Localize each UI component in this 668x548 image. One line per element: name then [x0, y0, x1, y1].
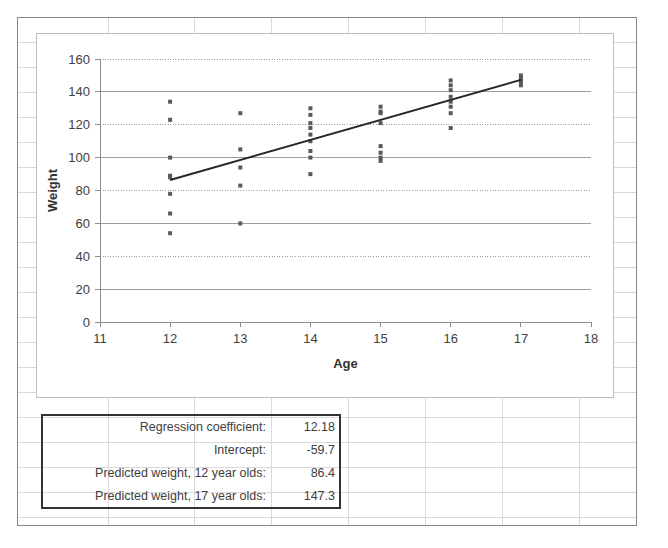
- x-axis-ticks: 1112131415161718: [93, 322, 598, 346]
- x-tick-label: 11: [93, 331, 107, 346]
- data-point: [449, 88, 453, 92]
- y-tick-label: 40: [76, 249, 90, 264]
- data-point: [449, 111, 453, 115]
- chart-container[interactable]: 0204060801001201401601112131415161718Age…: [36, 33, 614, 398]
- x-tick-label: 17: [514, 331, 528, 346]
- data-point: [168, 100, 172, 104]
- data-point: [449, 126, 453, 130]
- result-label: Predicted weight, 12 year olds:: [43, 462, 272, 485]
- x-tick-label: 16: [443, 331, 457, 346]
- data-point: [308, 126, 312, 130]
- data-point: [308, 106, 312, 110]
- result-value: 147.3: [272, 484, 339, 507]
- y-axis-ticks: 020406080100120140160: [68, 52, 100, 330]
- x-tick-label: 13: [233, 331, 247, 346]
- y-tick-label: 120: [68, 117, 90, 132]
- y-tick-label: 100: [68, 150, 90, 165]
- y-axis-title: Weight: [45, 168, 60, 212]
- x-axis-title: Age: [333, 356, 358, 371]
- data-point: [308, 113, 312, 117]
- data-point: [168, 231, 172, 235]
- y-tick-label: 160: [68, 52, 90, 67]
- table-row[interactable]: Regression coefficient:12.18: [43, 416, 339, 439]
- y-tick-label: 60: [76, 216, 90, 231]
- data-point: [449, 95, 453, 99]
- data-point: [238, 111, 242, 115]
- data-point: [238, 184, 242, 188]
- x-tick-label: 14: [303, 331, 317, 346]
- table-row[interactable]: Predicted weight, 12 year olds:86.4: [43, 462, 339, 485]
- y-tick-label: 140: [68, 84, 90, 99]
- regression-line: [170, 80, 521, 180]
- data-point: [379, 151, 383, 155]
- x-tick-label: 18: [584, 331, 598, 346]
- table-row[interactable]: Intercept:-59.7: [43, 439, 339, 462]
- data-point: [308, 172, 312, 176]
- data-point: [519, 83, 523, 87]
- result-value: -59.7: [272, 439, 339, 462]
- table-row[interactable]: Predicted weight, 17 year olds:147.3: [43, 484, 339, 507]
- data-point: [379, 121, 383, 125]
- data-point: [308, 156, 312, 160]
- data-point: [379, 144, 383, 148]
- data-point: [379, 159, 383, 163]
- data-point: [379, 111, 383, 115]
- data-point: [379, 105, 383, 109]
- y-gridlines: [100, 59, 591, 322]
- data-point: [238, 147, 242, 151]
- data-point: [308, 149, 312, 153]
- data-point: [238, 166, 242, 170]
- data-point: [168, 118, 172, 122]
- scatter-plot[interactable]: 0204060801001201401601112131415161718Age…: [37, 34, 613, 397]
- result-label: Intercept:: [43, 439, 272, 462]
- data-point: [168, 212, 172, 216]
- data-point: [168, 192, 172, 196]
- y-tick-label: 20: [76, 282, 90, 297]
- result-label: Predicted weight, 17 year olds:: [43, 484, 272, 507]
- data-point: [449, 78, 453, 82]
- data-point: [168, 156, 172, 160]
- regression-results-table[interactable]: Regression coefficient:12.18Intercept:-5…: [41, 414, 341, 509]
- y-tick-label: 0: [83, 315, 90, 330]
- result-value: 12.18: [272, 416, 339, 439]
- y-tick-label: 80: [76, 183, 90, 198]
- x-tick-label: 12: [163, 331, 177, 346]
- scatter-series: [168, 73, 523, 235]
- data-point: [449, 105, 453, 109]
- data-point: [308, 133, 312, 137]
- data-point: [308, 121, 312, 125]
- result-label: Regression coefficient:: [43, 416, 272, 439]
- data-point: [449, 83, 453, 87]
- x-tick-label: 15: [373, 331, 387, 346]
- data-point: [238, 221, 242, 225]
- result-value: 86.4: [272, 462, 339, 485]
